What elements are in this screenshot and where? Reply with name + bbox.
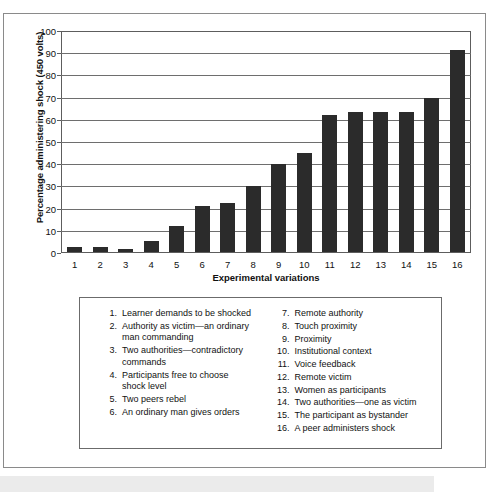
y-tick-mark [57,142,61,143]
y-tick-label: 100 [40,26,56,37]
bar-slot: 5 [164,32,190,252]
legend-item: 3.Two authorities—contradictory commands [102,345,255,368]
legend-item-number: 2. [102,321,117,344]
y-tick-label: 80 [45,70,56,81]
y-tick-mark [57,75,61,76]
legend-item-label: Touch proximity [295,321,438,333]
legend-item: 5.Two peers rebel [102,394,255,406]
x-tick-label: 11 [317,259,343,270]
bar-slot: 1 [62,32,88,252]
bar-slot: 12 [343,32,369,252]
legend-item: 16.A peer administers shock [275,423,438,435]
bar [450,50,465,252]
legend-item-number: 4. [102,370,117,393]
legend-item-label: Remote authority [295,308,438,320]
legend-item-number: 9. [275,334,290,346]
legend-item-number: 1. [102,308,117,320]
legend-item-label: Two authorities—one as victim [295,397,438,409]
page-bottom-strip [0,476,492,492]
y-tick-label: 10 [45,225,56,236]
y-tick-label: 90 [45,48,56,59]
bar-slot: 3 [113,32,139,252]
bar [297,153,312,252]
bar-slot: 11 [317,32,343,252]
bar-slot: 16 [445,32,471,252]
x-tick-label: 3 [113,259,139,270]
x-tick-label: 7 [215,259,241,270]
bar [322,115,337,253]
y-tick-mark [57,98,61,99]
y-tick-mark [57,53,61,54]
x-tick-label: 1 [62,259,88,270]
bar-slot: 15 [419,32,445,252]
page-strip-notch [434,476,492,492]
bar [348,112,363,252]
legend-item-number: 14. [275,397,290,409]
legend-item-number: 3. [102,345,117,368]
y-tick-label: 60 [45,114,56,125]
legend-item-label: Authority as victim—an ordinary man comm… [122,321,255,344]
bar [118,249,133,252]
y-tick-mark [57,209,61,210]
legend-item-label: Two peers rebel [122,394,255,406]
legend-item-number: 6. [102,407,117,419]
legend-item: 10.Institutional context [275,346,438,358]
legend-item: 4.Participants free to choose shock leve… [102,370,255,393]
y-tick-label: 40 [45,159,56,170]
bar [195,206,210,252]
y-tick-mark [57,253,61,254]
legend-item-label: Two authorities—contradictory commands [122,345,255,368]
y-tick-mark [57,31,61,32]
legend-item: 11.Voice feedback [275,359,438,371]
legend-item-number: 11. [275,359,290,371]
legend-item-label: Women as participants [295,385,438,397]
legend-item-label: Institutional context [295,346,438,358]
bar [373,112,388,252]
legend-item: 2.Authority as victim—an ordinary man co… [102,321,255,344]
y-tick-label: 30 [45,181,56,192]
bar-slot: 9 [266,32,292,252]
x-tick-label: 2 [88,259,114,270]
legend-item-label: The participant as bystander [295,410,438,422]
y-tick-mark [57,164,61,165]
bar [144,241,159,252]
bar-slot: 13 [368,32,394,252]
bar-slot: 4 [139,32,165,252]
legend-item-label: Participants free to choose shock level [122,370,255,393]
legend-item-label: Remote victim [295,372,438,384]
bar-slot: 6 [190,32,216,252]
legend-item: 15.The participant as bystander [275,410,438,422]
bar-slot: 10 [292,32,318,252]
x-tick-label: 9 [266,259,292,270]
legend-item: 7.Remote authority [275,308,438,320]
legend-item: 1.Learner demands to be shocked [102,308,255,320]
y-tick-mark [57,231,61,232]
y-tick-label: 50 [45,137,56,148]
y-axis-title: Percentage administering shock (450 volt… [34,13,45,243]
legend-item-number: 15. [275,410,290,422]
plot-area: 0102030405060708090100 12345678910111213… [61,31,471,253]
legend-item-number: 13. [275,385,290,397]
legend-columns: 1.Learner demands to be shocked2.Authori… [80,308,441,436]
y-tick-mark [57,120,61,121]
legend-item: 9.Proximity [275,334,438,346]
bar [271,164,286,252]
bar [220,203,235,253]
bar [424,98,439,252]
bar [169,226,184,252]
legend-column-left: 1.Learner demands to be shocked2.Authori… [80,308,261,436]
legend-box: 1.Learner demands to be shocked2.Authori… [79,297,442,449]
x-tick-label: 6 [190,259,216,270]
legend-item-label: Voice feedback [295,359,438,371]
legend-item: 6.An ordinary man gives orders [102,407,255,419]
y-tick-label: 0 [51,248,56,259]
y-tick-label: 70 [45,92,56,103]
legend-item-label: Learner demands to be shocked [122,308,255,320]
bar-chart: Percentage administering shock (450 volt… [4,14,487,296]
legend-column-right: 7.Remote authority8.Touch proximity9.Pro… [261,308,442,436]
legend-item-number: 16. [275,423,290,435]
bar [67,247,82,253]
bar-slot: 14 [394,32,420,252]
x-tick-label: 5 [164,259,190,270]
legend-item-label: An ordinary man gives orders [122,407,255,419]
